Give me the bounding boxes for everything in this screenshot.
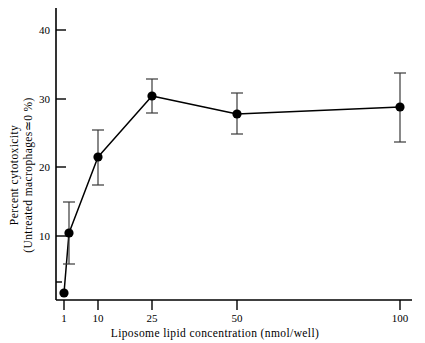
y-axis-ticks — [56, 30, 66, 282]
x-tick-label-10: 10 — [93, 312, 105, 324]
data-series-line — [64, 96, 400, 293]
y-axis-tick-labels: 40 30 20 10 — [39, 24, 51, 242]
x-tick-label-50: 50 — [232, 312, 244, 324]
cytotoxicity-line-chart: 40 30 20 10 1 10 25 50 100 — [0, 0, 425, 343]
data-point-5 — [232, 109, 241, 118]
figure-panel: 40 30 20 10 1 10 25 50 100 — [0, 0, 425, 343]
y-tick-label-10: 10 — [39, 230, 51, 242]
data-point-markers — [59, 91, 404, 297]
data-point-4 — [147, 91, 156, 100]
y-axis-title-line2: (Untreated macrophages≃0 %) — [22, 97, 35, 253]
error-bars — [63, 73, 406, 264]
data-point-1 — [59, 288, 68, 297]
data-point-2 — [64, 228, 73, 237]
x-tick-label-100: 100 — [392, 312, 409, 324]
x-axis-title: Liposome lipid concentration (nmol/well) — [111, 327, 320, 340]
y-tick-label-40: 40 — [39, 24, 51, 36]
y-axis-title-line1: Percent cytotoxicity — [8, 125, 21, 225]
x-axis-tick-labels: 1 10 25 50 100 — [61, 312, 409, 324]
x-axis-ticks — [64, 300, 400, 310]
x-tick-label-1: 1 — [61, 312, 67, 324]
data-point-3 — [93, 152, 102, 161]
x-tick-label-25: 25 — [147, 312, 159, 324]
y-tick-label-30: 30 — [39, 93, 51, 105]
data-point-6 — [395, 102, 404, 111]
y-tick-label-20: 20 — [39, 161, 51, 173]
